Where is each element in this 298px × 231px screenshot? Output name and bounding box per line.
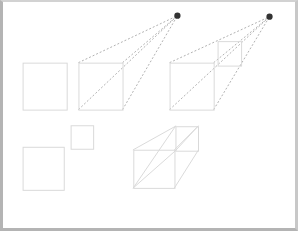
vanishing-point-2[interactable] <box>266 14 272 20</box>
box-diagonal-1 <box>175 126 198 150</box>
drawing-surface[interactable] <box>3 2 295 228</box>
guide-line-c1-3 <box>123 16 178 110</box>
guide-line-c1-0 <box>78 16 177 63</box>
solid-box-group <box>133 126 198 188</box>
box-edge-3 <box>174 151 198 188</box>
square-shapes-group <box>23 42 242 191</box>
guide-line-c2-0 <box>170 17 270 63</box>
lower-square[interactable] <box>23 147 64 190</box>
small-square[interactable] <box>71 126 94 149</box>
box-edge-0 <box>133 126 175 149</box>
vanishing-point-1[interactable] <box>174 13 180 19</box>
box-diagonal-0 <box>133 126 175 188</box>
construction-two-back-square[interactable] <box>218 42 242 66</box>
perspective-scene <box>3 2 295 228</box>
plain-square[interactable] <box>23 63 67 110</box>
vanishing-points-group <box>174 13 272 20</box>
drawing-canvas-frame <box>0 0 298 231</box>
box-back-face[interactable] <box>176 127 199 151</box>
guide-line-c1-1 <box>123 16 178 63</box>
